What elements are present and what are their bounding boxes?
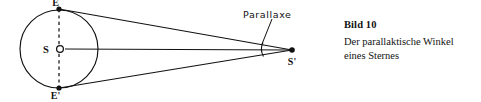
angle-label-leader-line [262,19,272,44]
sun-open-circle-icon [57,46,64,53]
figure-caption: Bild 10 Der parallaktische Winkel eines … [344,18,478,63]
figure-page: E E' S S' Parallaxe Bild 10 Der parallak… [0,0,481,102]
parallax-diagram: E E' S S' Parallaxe [0,0,330,102]
label-star: S' [288,56,297,67]
caption-title: Bild 10 [344,18,478,31]
caption-line-2: eines Sternes [344,49,478,63]
caption-line-1: Der parallaktische Winkel [344,35,478,49]
label-sun: S [43,44,49,55]
ray-sun-to-star [65,49,292,50]
filled-dot-icon-star [289,47,295,53]
label-parallax-angle: Parallaxe [243,9,292,20]
label-earth-bottom: E' [51,90,61,101]
label-earth-top: E [52,0,59,8]
ray-earth-bottom-to-star [59,50,292,88]
